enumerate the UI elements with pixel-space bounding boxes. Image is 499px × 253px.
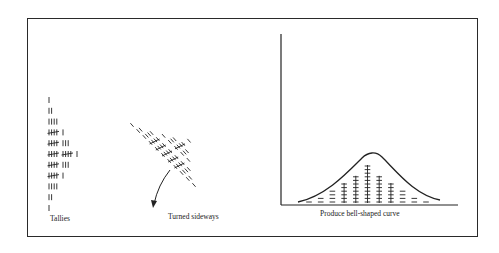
caption-bell-curve: Produce bell-shaped curve xyxy=(320,209,400,218)
sideways-tallies-group xyxy=(130,123,195,187)
bell-tallies-group xyxy=(306,165,429,203)
caption-tallies: Tallies xyxy=(50,214,70,223)
arrowhead-icon xyxy=(151,200,157,208)
caption-turned-sideways: Turned sideways xyxy=(168,212,219,221)
diagram-canvas xyxy=(0,0,499,253)
rotation-arrow-icon xyxy=(154,170,170,204)
tallies-group xyxy=(48,97,78,211)
